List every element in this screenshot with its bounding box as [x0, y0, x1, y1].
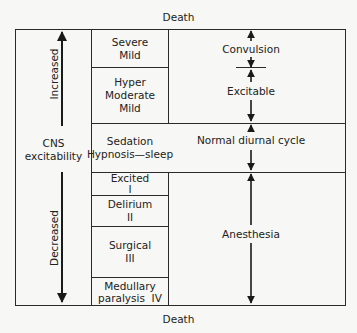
cell-stage-1: Excited I: [92, 173, 168, 195]
increased-label: Increased: [48, 44, 60, 104]
decreased-label: Decreased: [48, 206, 60, 270]
cell-stage-2: Delirium II: [92, 196, 168, 226]
cell-sedation: Sedation Hypnosis—sleep: [92, 124, 168, 172]
cell-line: III: [125, 252, 134, 265]
cell-line: Moderate: [105, 89, 155, 102]
cell-line: Severe: [112, 36, 148, 49]
normal-diurnal-label: Normal diurnal cycle: [185, 134, 317, 147]
cell-line: I: [128, 184, 131, 195]
cell-line: Medullary: [104, 280, 156, 292]
anesthesia-label: Anesthesia: [211, 228, 291, 241]
cell-stage-4: Medullary paralysis IV: [92, 278, 168, 305]
cns-title-line1: CNS: [16, 137, 91, 150]
excitable-label: Excitable: [201, 85, 301, 98]
cell-stage-3: Surgical III: [92, 227, 168, 277]
cell-line: II: [127, 211, 133, 224]
cns-title-line2: excitability: [16, 150, 91, 163]
cell-line: paralysis IV: [98, 292, 162, 304]
cell-convulsion-levels: Severe Mild: [92, 30, 168, 67]
cell-line: Delirium: [108, 198, 153, 211]
cell-line: Hypnosis—sleep: [87, 148, 173, 161]
cell-line: Mild: [119, 49, 141, 62]
cell-line: Hyper: [114, 76, 146, 89]
cell-line: Surgical: [109, 239, 151, 252]
cns-title: CNS excitability: [16, 137, 91, 163]
cell-excitable-levels: Hyper Moderate Mild: [92, 68, 168, 123]
cell-line: Sedation: [107, 135, 153, 148]
convulsion-label: Convulsion: [201, 43, 301, 56]
cell-line: Mild: [119, 102, 141, 115]
